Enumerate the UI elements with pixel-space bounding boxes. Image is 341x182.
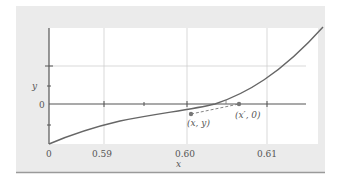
y-axis-label: y xyxy=(31,81,38,91)
chart-figure: y 0 0 0.59 0.60 0.61 x (x, y) (x′, 0) xyxy=(0,0,341,182)
x-tick-label-0-59: 0.59 xyxy=(92,149,112,159)
x-tick-label-0-61: 0.61 xyxy=(257,149,277,159)
plot-area xyxy=(49,28,318,144)
point-label-x-prime-zero: (x′, 0) xyxy=(235,110,261,120)
point-x-y xyxy=(189,112,193,116)
x-tick-label-0-60: 0.60 xyxy=(175,149,195,159)
point-label-x-y: (x, y) xyxy=(187,118,210,128)
point-x-prime-zero xyxy=(237,102,241,106)
y-zero-label: 0 xyxy=(39,100,45,110)
x-axis-label: x xyxy=(176,159,181,169)
x-tick-label-0: 0 xyxy=(46,149,52,159)
